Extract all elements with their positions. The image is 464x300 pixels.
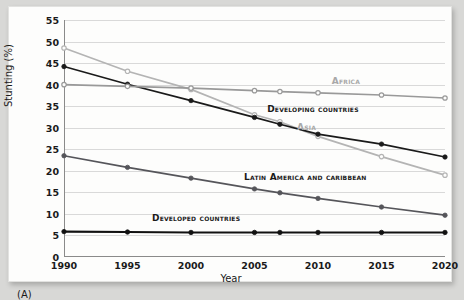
- data-point-marker: [443, 213, 447, 217]
- x-tick-label: 2010: [305, 260, 331, 271]
- data-point-marker: [443, 155, 447, 159]
- x-tick-label: 2020: [432, 260, 458, 271]
- y-axis-title: Stunting (%): [3, 44, 14, 107]
- x-tick-label: 2000: [178, 260, 204, 271]
- x-tick-label: 1990: [51, 260, 77, 271]
- data-point-marker: [252, 187, 256, 191]
- series-lines: [64, 20, 445, 257]
- series-label-africa: Africa: [332, 76, 360, 86]
- x-axis-tick-labels: 1990199520002005201020152020: [64, 260, 445, 274]
- x-tick-label: 2015: [368, 260, 394, 271]
- data-point-marker: [252, 115, 256, 119]
- data-point-marker: [62, 229, 66, 233]
- y-tick-label: 45: [31, 58, 59, 69]
- data-point-marker: [316, 230, 320, 234]
- data-point-marker: [316, 91, 320, 95]
- data-point-marker: [443, 230, 447, 234]
- data-point-marker: [62, 154, 66, 158]
- data-point-marker: [189, 86, 193, 90]
- panel-letter: (A): [17, 289, 32, 300]
- data-point-marker: [252, 88, 256, 92]
- data-point-marker: [125, 230, 129, 234]
- data-point-marker: [379, 230, 383, 234]
- data-point-marker: [125, 165, 129, 169]
- x-tick-label: 1995: [114, 260, 140, 271]
- data-point-marker: [189, 98, 193, 102]
- data-point-marker: [125, 84, 129, 88]
- y-tick-label: 35: [31, 101, 59, 112]
- y-tick-label: 55: [31, 15, 59, 26]
- series-label-developed-countries: Developed countries: [152, 213, 240, 223]
- series-label-latin-america-and-caribbean: Latin America and caribbean: [244, 172, 366, 182]
- data-point-marker: [278, 230, 282, 234]
- data-point-marker: [62, 46, 66, 50]
- y-tick-label: 40: [31, 79, 59, 90]
- data-point-marker: [278, 191, 282, 195]
- y-tick-label: 25: [31, 144, 59, 155]
- data-point-marker: [189, 230, 193, 234]
- x-tick-label: 2005: [241, 260, 267, 271]
- data-point-marker: [62, 64, 66, 68]
- series-line: [64, 67, 445, 157]
- data-point-marker: [379, 205, 383, 209]
- data-point-marker: [443, 96, 447, 100]
- series-label-asia: Asia: [297, 122, 316, 132]
- data-point-marker: [62, 82, 66, 86]
- data-point-marker: [278, 89, 282, 93]
- data-point-marker: [379, 154, 383, 158]
- data-point-marker: [252, 230, 256, 234]
- y-tick-label: 50: [31, 36, 59, 47]
- figure-panel: Stunting (%) 0510152025303540455055 Asia…: [8, 6, 452, 282]
- data-point-marker: [189, 176, 193, 180]
- y-tick-label: 10: [31, 208, 59, 219]
- data-point-marker: [316, 196, 320, 200]
- data-point-marker: [278, 122, 282, 126]
- data-point-marker: [316, 132, 320, 136]
- series-line: [64, 156, 445, 215]
- y-tick-label: 15: [31, 187, 59, 198]
- y-tick-label: 30: [31, 122, 59, 133]
- data-point-marker: [379, 142, 383, 146]
- y-tick-label: 5: [31, 230, 59, 241]
- series-line: [64, 48, 445, 175]
- data-point-marker: [443, 173, 447, 177]
- data-point-marker: [125, 69, 129, 73]
- series-label-developing-countries: Developing countries: [267, 104, 359, 114]
- x-axis-title: Year: [9, 273, 453, 284]
- plot-area: AsiaDeveloping countriesAfricaLatin Amer…: [64, 20, 445, 257]
- data-point-marker: [379, 93, 383, 97]
- y-axis-tick-labels: 0510152025303540455055: [31, 20, 59, 257]
- y-tick-label: 20: [31, 165, 59, 176]
